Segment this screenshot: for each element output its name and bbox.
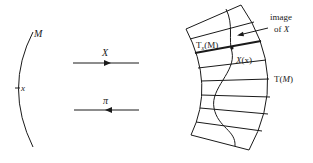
point-x-label: x	[20, 83, 25, 93]
fiber-tx-label: Tx(M)	[196, 40, 218, 51]
vector-field-label: X	[101, 47, 109, 58]
tangent-bundle-label: T(M)	[274, 74, 293, 84]
arrow-left-icon	[237, 32, 244, 36]
diagram-canvas: M x X π Tx(M) X(x)	[0, 0, 313, 163]
manifold-label: M	[33, 28, 43, 39]
fiber-line	[201, 95, 270, 97]
tangent-bundle-diagram: M x X π Tx(M) X(x)	[0, 0, 313, 163]
point-x-of-x-dot	[230, 46, 233, 49]
projection-label: π	[103, 95, 109, 106]
vector-field-arrow: X	[73, 47, 139, 66]
fiber-line	[186, 5, 241, 29]
fiber-line	[191, 135, 249, 150]
vector-x-of-x-label: X(x)	[235, 55, 252, 65]
fiber-line	[201, 79, 269, 81]
image-caption-line2: of X	[274, 24, 290, 34]
fiber-line	[200, 108, 268, 114]
manifold-m: M x	[15, 28, 43, 147]
projection-arrow: π	[74, 95, 139, 113]
tangent-bundle: Tx(M) X(x) image of X T(M)	[186, 5, 293, 150]
arrow-right-icon	[104, 60, 111, 66]
arrow-left-icon	[105, 107, 112, 113]
fiber-line	[196, 122, 262, 131]
image-caption-line1: image	[270, 12, 292, 22]
fiber-line	[190, 22, 254, 39]
